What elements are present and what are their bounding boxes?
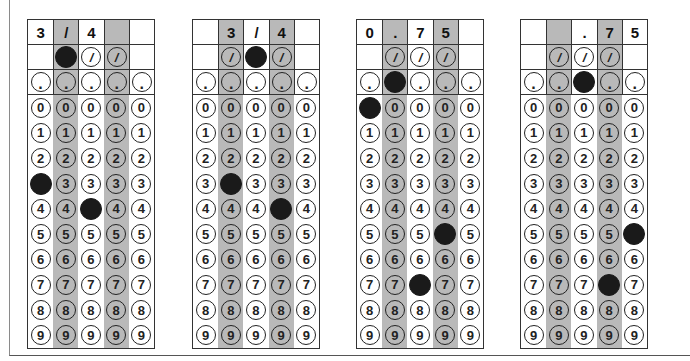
digit-bubble[interactable]: 4	[56, 199, 76, 219]
digit-bubble[interactable]: 0	[271, 98, 291, 118]
digit-bubble[interactable]: 2	[360, 148, 380, 168]
digit-bubble[interactable]: 2	[385, 148, 405, 168]
digit-bubble[interactable]: 3	[131, 174, 151, 194]
digit-bubble[interactable]: 9	[56, 325, 76, 345]
digit-bubble[interactable]: 3	[624, 174, 644, 194]
digit-bubble[interactable]: 7	[196, 275, 216, 295]
digit-bubble[interactable]: 4	[80, 198, 102, 220]
digit-bubble[interactable]: 0	[196, 98, 216, 118]
digit-bubble[interactable]: 9	[410, 325, 430, 345]
digit-bubble[interactable]: 7	[81, 275, 101, 295]
digit-bubble[interactable]: 8	[131, 300, 151, 320]
digit-bubble[interactable]: 4	[574, 199, 594, 219]
digit-bubble[interactable]: 5	[106, 224, 126, 244]
digit-bubble[interactable]: 6	[460, 249, 480, 269]
digit-bubble[interactable]: 1	[385, 123, 405, 143]
digit-bubble[interactable]: 4	[31, 199, 51, 219]
decimal-bubble[interactable]: .	[196, 72, 216, 92]
digit-bubble[interactable]: 7	[624, 275, 644, 295]
digit-bubble[interactable]: 5	[196, 224, 216, 244]
digit-bubble[interactable]: 7	[598, 274, 620, 296]
digit-bubble[interactable]: 5	[56, 224, 76, 244]
digit-bubble[interactable]: 1	[106, 123, 126, 143]
digit-bubble[interactable]: 5	[246, 224, 266, 244]
digit-bubble[interactable]: 2	[196, 148, 216, 168]
digit-bubble[interactable]: 1	[271, 123, 291, 143]
digit-bubble[interactable]: 6	[574, 249, 594, 269]
digit-bubble[interactable]: 1	[81, 123, 101, 143]
digit-bubble[interactable]: 1	[31, 123, 51, 143]
slash-bubble[interactable]: /	[600, 47, 620, 67]
digit-bubble[interactable]: 7	[271, 275, 291, 295]
digit-bubble[interactable]: 6	[81, 249, 101, 269]
digit-bubble[interactable]: 7	[131, 275, 151, 295]
decimal-bubble[interactable]: .	[81, 72, 101, 92]
decimal-bubble[interactable]: .	[600, 72, 620, 92]
decimal-bubble[interactable]: .	[246, 72, 266, 92]
digit-bubble[interactable]: 3	[56, 174, 76, 194]
digit-bubble[interactable]: 1	[549, 123, 569, 143]
digit-bubble[interactable]: 9	[31, 325, 51, 345]
digit-bubble[interactable]: 9	[385, 325, 405, 345]
digit-bubble[interactable]: 3	[460, 174, 480, 194]
digit-bubble[interactable]: 2	[221, 148, 241, 168]
digit-bubble[interactable]: 0	[359, 97, 381, 119]
digit-bubble[interactable]: 3	[30, 173, 52, 195]
digit-bubble[interactable]: 4	[296, 199, 316, 219]
digit-bubble[interactable]: 4	[435, 199, 455, 219]
digit-bubble[interactable]: 5	[574, 224, 594, 244]
digit-bubble[interactable]: 2	[549, 148, 569, 168]
slash-bubble[interactable]: /	[574, 47, 594, 67]
digit-bubble[interactable]: 6	[410, 249, 430, 269]
decimal-bubble[interactable]: .	[410, 72, 430, 92]
decimal-bubble[interactable]: .	[625, 72, 645, 92]
digit-bubble[interactable]: 9	[296, 325, 316, 345]
digit-bubble[interactable]: 2	[131, 148, 151, 168]
digit-bubble[interactable]: 6	[56, 249, 76, 269]
digit-bubble[interactable]: 2	[435, 148, 455, 168]
digit-bubble[interactable]: 0	[549, 98, 569, 118]
digit-bubble[interactable]: 8	[296, 300, 316, 320]
decimal-bubble[interactable]: .	[461, 72, 481, 92]
digit-bubble[interactable]: 8	[549, 300, 569, 320]
digit-bubble[interactable]: 7	[106, 275, 126, 295]
digit-bubble[interactable]: 1	[460, 123, 480, 143]
decimal-bubble[interactable]: .	[384, 71, 406, 93]
digit-bubble[interactable]: 8	[56, 300, 76, 320]
digit-bubble[interactable]: 0	[599, 98, 619, 118]
slash-bubble[interactable]: /	[55, 46, 77, 68]
slash-bubble[interactable]: /	[436, 47, 456, 67]
digit-bubble[interactable]: 5	[434, 223, 456, 245]
digit-bubble[interactable]: 8	[574, 300, 594, 320]
digit-bubble[interactable]: 9	[624, 325, 644, 345]
slash-bubble[interactable]: /	[385, 47, 405, 67]
digit-bubble[interactable]: 0	[460, 98, 480, 118]
digit-bubble[interactable]: 9	[574, 325, 594, 345]
digit-bubble[interactable]: 4	[196, 199, 216, 219]
digit-bubble[interactable]: 2	[599, 148, 619, 168]
digit-bubble[interactable]: 2	[524, 148, 544, 168]
digit-bubble[interactable]: 0	[296, 98, 316, 118]
slash-bubble[interactable]: /	[107, 47, 127, 67]
digit-bubble[interactable]: 1	[435, 123, 455, 143]
digit-bubble[interactable]: 9	[524, 325, 544, 345]
digit-bubble[interactable]: 1	[599, 123, 619, 143]
digit-bubble[interactable]: 8	[524, 300, 544, 320]
digit-bubble[interactable]: 8	[360, 300, 380, 320]
decimal-bubble[interactable]: .	[31, 72, 51, 92]
digit-bubble[interactable]: 0	[31, 98, 51, 118]
digit-bubble[interactable]: 3	[81, 174, 101, 194]
digit-bubble[interactable]: 2	[624, 148, 644, 168]
digit-bubble[interactable]: 7	[549, 275, 569, 295]
digit-bubble[interactable]: 5	[31, 224, 51, 244]
digit-bubble[interactable]: 9	[196, 325, 216, 345]
digit-bubble[interactable]: 5	[460, 224, 480, 244]
digit-bubble[interactable]: 1	[296, 123, 316, 143]
digit-bubble[interactable]: 5	[271, 224, 291, 244]
digit-bubble[interactable]: 2	[296, 148, 316, 168]
digit-bubble[interactable]: 5	[296, 224, 316, 244]
digit-bubble[interactable]: 8	[435, 300, 455, 320]
digit-bubble[interactable]: 9	[271, 325, 291, 345]
digit-bubble[interactable]: 7	[435, 275, 455, 295]
digit-bubble[interactable]: 3	[196, 174, 216, 194]
